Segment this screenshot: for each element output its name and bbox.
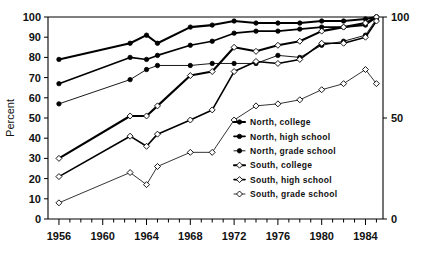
data-point — [187, 149, 193, 155]
legend-label: North, high school — [250, 132, 330, 142]
y2-tick-label: 0 — [391, 213, 397, 225]
data-point — [127, 170, 133, 176]
series-north-college — [57, 15, 379, 62]
x-tick-label: 1964 — [134, 230, 159, 242]
data-point — [232, 31, 236, 35]
x-tick-label: 1976 — [266, 230, 290, 242]
data-point — [341, 24, 347, 30]
data-point — [276, 29, 280, 33]
legend-item-south-high-school: South, high school — [234, 175, 332, 185]
data-point — [275, 101, 281, 107]
data-point — [253, 48, 259, 54]
data-point — [56, 200, 62, 206]
data-point — [319, 87, 325, 93]
y2-tick-label: 50 — [391, 112, 403, 124]
data-point — [57, 57, 61, 61]
legend-item-south-grade-school: South, grade school — [234, 189, 337, 199]
y-tick-label: 10 — [29, 193, 41, 205]
data-point — [341, 19, 345, 23]
y-axis-title: Percent — [4, 99, 16, 137]
data-point — [298, 27, 302, 31]
x-tick-label: 1980 — [309, 230, 333, 242]
data-point — [254, 21, 258, 25]
data-point — [297, 97, 303, 103]
x-tick-label: 1984 — [353, 230, 378, 242]
data-point — [210, 23, 214, 27]
data-point — [144, 57, 148, 61]
series-path — [59, 17, 376, 59]
legend-item-north-grade-school: North, grade school — [234, 146, 336, 156]
data-point — [254, 29, 258, 33]
legend-swatch-marker — [237, 134, 241, 138]
legend-item-north-college: North, college — [234, 117, 311, 127]
data-point — [128, 77, 132, 81]
y-tick-label: 70 — [29, 72, 41, 84]
data-point — [144, 67, 148, 71]
data-point — [275, 42, 281, 48]
y-tick-label: 90 — [29, 31, 41, 43]
y-tick-label: 50 — [29, 112, 41, 124]
series-north-high-school — [57, 15, 379, 86]
x-tick-label: 1956 — [47, 230, 71, 242]
series-south-college — [56, 14, 379, 161]
data-point — [276, 21, 280, 25]
data-point — [155, 63, 159, 67]
legend-label: North, college — [250, 117, 311, 127]
data-point — [298, 21, 302, 25]
legend-label: South, high school — [250, 175, 332, 185]
y-tick-label: 0 — [35, 213, 41, 225]
x-tick-label: 1972 — [222, 230, 246, 242]
legend-label: South, grade school — [250, 189, 337, 199]
data-point — [341, 81, 347, 87]
data-point — [57, 81, 61, 85]
data-point — [232, 61, 236, 65]
data-point — [144, 33, 148, 37]
series-path — [59, 19, 376, 104]
x-tick-label: 1968 — [178, 230, 202, 242]
legend-swatch-marker — [237, 120, 241, 124]
data-point — [128, 55, 132, 59]
series-path — [59, 17, 376, 84]
y-tick-label: 40 — [29, 132, 41, 144]
line-chart: 0102030405060708090100Percent05010019561… — [0, 0, 432, 257]
data-point — [128, 41, 132, 45]
legend-swatch-marker — [237, 191, 243, 197]
chart-canvas: 0102030405060708090100Percent05010019561… — [0, 0, 432, 257]
y-tick-label: 60 — [29, 92, 41, 104]
data-point — [319, 19, 323, 23]
legend-label: South, college — [250, 160, 312, 170]
data-point — [210, 61, 214, 65]
x-tick-label: 1960 — [90, 230, 114, 242]
series-south-grade-school — [56, 67, 379, 206]
data-point — [275, 60, 281, 66]
legend-item-north-high-school: North, high school — [234, 132, 330, 142]
data-point — [155, 41, 159, 45]
legend-swatch-marker — [237, 149, 241, 153]
data-point — [209, 149, 215, 155]
data-point — [155, 53, 159, 57]
data-point — [154, 163, 160, 169]
data-point — [232, 19, 236, 23]
legend-layer: North, collegeNorth, high schoolNorth, g… — [234, 117, 337, 199]
y-tick-label: 100 — [23, 11, 41, 23]
legend-item-south-college: South, college — [234, 160, 312, 170]
y2-tick-label: 100 — [391, 11, 409, 23]
y-tick-label: 20 — [29, 173, 41, 185]
data-point — [253, 103, 259, 109]
data-point — [210, 39, 214, 43]
legend-swatch-marker — [237, 162, 243, 168]
data-point — [57, 102, 61, 106]
data-point — [188, 63, 192, 67]
data-point — [276, 53, 280, 57]
data-point — [188, 25, 192, 29]
data-point — [187, 117, 193, 123]
data-point — [188, 43, 192, 47]
legend-swatch-marker — [237, 177, 243, 183]
legend-label: North, grade school — [250, 146, 336, 156]
y-tick-label: 80 — [29, 51, 41, 63]
data-point — [144, 182, 150, 188]
axes-layer: 0102030405060708090100Percent05010019561… — [4, 11, 409, 242]
y-tick-label: 30 — [29, 152, 41, 164]
